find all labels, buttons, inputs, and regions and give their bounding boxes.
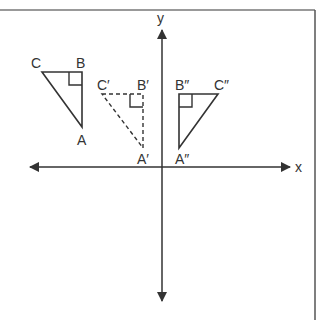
vertex-label-c: C (31, 55, 41, 71)
vertex-label-b-prime: B′ (137, 77, 149, 93)
vertex-label-c-prime: C′ (97, 77, 110, 93)
coordinate-plane-diagram: x y C B A C′ B′ A′ B″ C″ A″ (0, 0, 319, 320)
triangle-a-double-prime-b-double-prime-c-double-prime: B″ C″ A″ (175, 77, 229, 167)
triangle-a-prime-b-prime-c-prime: C′ B′ A′ (97, 77, 149, 167)
vertex-label-b: B (76, 55, 85, 71)
vertex-label-a-double-prime: A″ (175, 151, 189, 167)
triangle-abc: C B A (31, 55, 87, 148)
right-angle-mark-b (69, 72, 82, 85)
vertex-label-a-prime: A′ (137, 151, 149, 167)
vertex-label-b-double-prime: B″ (175, 77, 189, 93)
triangle-abc-shape (42, 72, 82, 127)
vertex-label-c-double-prime: C″ (214, 77, 229, 93)
triangle-double-prime-shape (179, 94, 218, 148)
vertex-label-a: A (77, 132, 87, 148)
axes: x y (30, 10, 302, 301)
x-axis-label: x (295, 159, 302, 175)
right-angle-mark-b-prime (130, 94, 143, 107)
right-angle-mark-b-double-prime (179, 94, 192, 107)
y-axis-label: y (157, 10, 164, 26)
frame (0, 10, 315, 320)
triangle-prime-shape (102, 94, 143, 148)
